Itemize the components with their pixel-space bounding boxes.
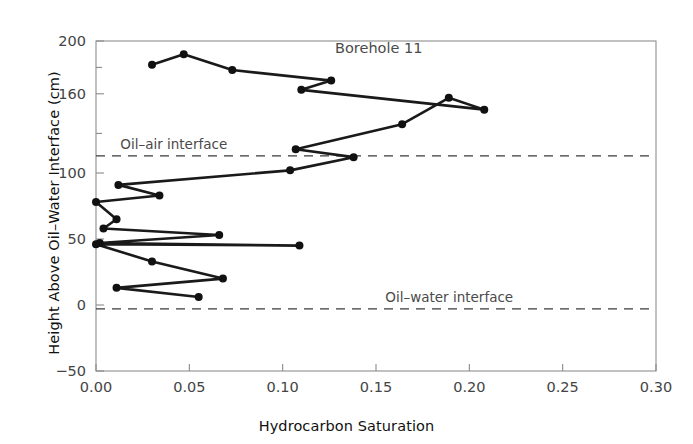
x-tick-label: 0.00 [80, 379, 112, 395]
x-tick-label: 0.15 [360, 379, 392, 395]
reference-line-label: Oil–water interface [385, 289, 513, 305]
chart-title: Borehole 11 [335, 40, 422, 56]
y-tick-label: 160 [58, 86, 86, 102]
data-point [215, 231, 223, 239]
data-point [113, 284, 121, 292]
reference-line-label: Oil–air interface [120, 136, 227, 152]
data-point [292, 145, 300, 153]
y-axis-title: Height Above Oil–Water Interface (cm) [46, 33, 62, 393]
data-point [92, 240, 100, 248]
x-tick-label: 0.20 [453, 379, 485, 395]
data-point [155, 191, 163, 199]
data-point [327, 77, 335, 85]
data-point [350, 153, 358, 161]
data-point [114, 181, 122, 189]
data-point [480, 106, 488, 114]
data-point [92, 198, 100, 206]
x-tick-label: 0.25 [547, 379, 579, 395]
chart-canvas: 0.000.050.100.150.200.250.30 −5005010016… [0, 0, 693, 444]
data-point [148, 61, 156, 69]
data-point [297, 86, 305, 94]
data-point [219, 275, 227, 283]
data-point [228, 66, 236, 74]
plot-frame [96, 41, 656, 371]
data-point [195, 293, 203, 301]
data-point [445, 94, 453, 102]
data-point [398, 120, 406, 128]
x-tick-label: 0.05 [173, 379, 205, 395]
data-point [99, 224, 107, 232]
y-tick-label: 100 [58, 165, 86, 181]
data-point [286, 166, 294, 174]
chart-figure: 0.000.050.100.150.200.250.30 −5005010016… [0, 0, 693, 444]
x-axis-title: Hydrocarbon Saturation [0, 418, 693, 434]
y-tick-label: 200 [58, 33, 86, 49]
y-tick-label: 0 [77, 297, 86, 313]
data-point [180, 50, 188, 58]
data-point [113, 215, 121, 223]
data-point [148, 257, 156, 265]
y-tick-label: 50 [68, 231, 86, 247]
x-tick-label: 0.30 [640, 379, 672, 395]
x-tick-label: 0.10 [267, 379, 299, 395]
data-point [295, 242, 303, 250]
